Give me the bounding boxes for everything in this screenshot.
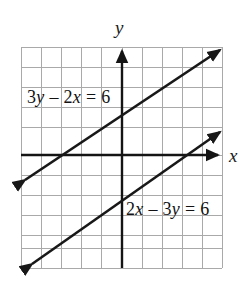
y-axis-label: y — [115, 18, 123, 37]
lower-line-equation-label: 2x – 3y = 6 — [126, 200, 210, 218]
lower-eq-var1: x — [135, 199, 143, 219]
lower-eq-coef1: 2 — [126, 199, 135, 219]
lower-eq-coef2: 3 — [163, 199, 172, 219]
x-axis-label: x — [229, 146, 237, 165]
upper-eq-var2: x — [73, 87, 81, 107]
lower-eq-rhs: 6 — [200, 199, 209, 219]
upper-eq-coef1: 3 — [27, 87, 36, 107]
lower-eq-var2: y — [172, 199, 180, 219]
upper-eq-coef2: 2 — [64, 87, 73, 107]
upper-line-equation-label: 3y – 2x = 6 — [27, 88, 111, 106]
graph-figure: y x 3y – 2x = 6 2x – 3y = 6 — [0, 0, 248, 289]
upper-eq-rhs: 6 — [101, 87, 110, 107]
upper-eq-var1: y — [36, 87, 44, 107]
coordinate-plane-svg — [0, 0, 248, 289]
upper-eq-equals: = — [81, 87, 101, 107]
lower-eq-equals: = — [180, 199, 200, 219]
lower-eq-op: – — [144, 199, 163, 219]
lower-line — [32, 132, 220, 264]
upper-eq-op: – — [45, 87, 64, 107]
